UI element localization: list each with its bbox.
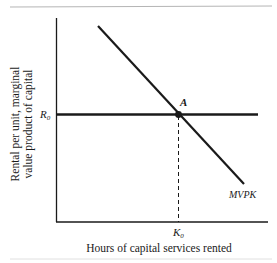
x-axis-title: Hours of capital services rented: [86, 242, 232, 255]
y-axis-title-line1: Rental per unit, marginal: [9, 67, 22, 182]
diagram-canvas: A R0 K0 MVPK Hours of capital services r…: [0, 0, 277, 263]
y-axis-title-line2: value product of capital: [22, 70, 35, 179]
y-tick-label-r0: R0: [39, 108, 51, 122]
point-label-a: A: [179, 96, 187, 108]
curve-label-mvpk: MVPK: [228, 189, 258, 200]
x-tick-label-k0: K0: [172, 226, 184, 240]
top-rule: [10, 6, 272, 7]
equilibrium-point: [175, 111, 182, 118]
mvpk-curve: [98, 26, 244, 184]
